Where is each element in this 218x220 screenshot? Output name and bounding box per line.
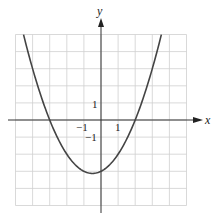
x-axis: x xyxy=(8,113,211,127)
tick-y-neg1: −1 xyxy=(85,131,97,143)
x-axis-label: x xyxy=(204,113,211,127)
tick-y-pos1: 1 xyxy=(92,98,98,110)
tick-x-pos1: 1 xyxy=(115,121,121,133)
y-axis-arrow-icon xyxy=(98,18,104,27)
x-axis-arrow-icon xyxy=(193,117,203,123)
y-axis-label: y xyxy=(96,4,103,18)
graph: x y −1 1 1 −1 xyxy=(0,0,218,220)
